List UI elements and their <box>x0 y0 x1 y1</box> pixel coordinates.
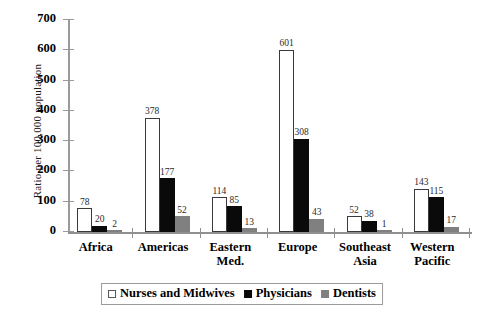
bar-value-label: 85 <box>230 196 240 206</box>
bar-rect <box>362 221 377 233</box>
bar-physicians: 85 <box>227 18 242 232</box>
bar-dentists: 13 <box>242 18 257 232</box>
bar-dentists: 1 <box>377 18 392 232</box>
bar-value-label: 78 <box>80 198 90 208</box>
category-label-southeast-asia: SoutheastAsia <box>331 240 398 268</box>
chart-legend: Nurses and MidwivesPhysiciansDentists <box>101 283 383 305</box>
bar-rect <box>347 216 362 232</box>
bar-dentists: 43 <box>309 18 324 232</box>
category-label-africa: Africa <box>62 240 129 254</box>
y-axis-tick: 200 <box>63 170 74 171</box>
bar-value-label: 177 <box>160 168 174 178</box>
bar-value-label: 17 <box>447 216 457 226</box>
bar-nurses: 78 <box>77 18 92 232</box>
bar-physicians: 38 <box>362 18 377 232</box>
bar-value-label: 143 <box>414 178 428 188</box>
bar-value-label: 13 <box>245 218 255 228</box>
x-axis-tick <box>469 228 470 238</box>
category-label-europe: Europe <box>264 240 331 254</box>
y-axis-tick-label: 200 <box>37 162 56 177</box>
bar-rect <box>175 216 190 232</box>
bar-rect <box>414 189 429 232</box>
y-axis-tick-label: 500 <box>37 72 56 87</box>
bar-value-label: 115 <box>429 187 443 197</box>
bar-value-label: 52 <box>349 206 359 216</box>
bar-group: 52381 <box>347 18 392 232</box>
bar-value-label: 308 <box>295 128 309 138</box>
y-axis-tick-label: 600 <box>37 41 56 56</box>
bar-value-label: 43 <box>312 208 322 218</box>
legend-swatch-nurses-icon <box>108 290 116 298</box>
legend-item-physicians[interactable]: Physicians <box>244 286 312 301</box>
legend-swatch-physicians-icon <box>244 290 252 298</box>
bar-group: 1148513 <box>212 18 257 232</box>
bar-group: 37817752 <box>145 18 190 232</box>
bar-rect <box>377 230 392 232</box>
bar-rect <box>145 118 160 232</box>
category-label-line2: Asia <box>331 254 398 268</box>
y-axis-tick-label: 700 <box>37 11 56 26</box>
bar-value-label: 114 <box>212 187 226 197</box>
bar-value-label: 1 <box>382 220 387 230</box>
y-axis-tick-label: 300 <box>37 132 56 147</box>
category-label-line1: Europe <box>278 240 317 254</box>
y-axis-tick: 500 <box>63 80 74 81</box>
bar-nurses: 601 <box>279 18 294 232</box>
legend-swatch-dentists-icon <box>321 290 329 298</box>
y-axis-tick-label: 400 <box>37 102 56 117</box>
legend-label: Dentists <box>333 286 376 301</box>
bar-rect <box>294 139 309 232</box>
bar-physicians: 308 <box>294 18 309 232</box>
bar-group: 60130843 <box>279 18 324 232</box>
legend-label: Nurses and Midwives <box>120 286 235 301</box>
bar-rect <box>92 226 107 232</box>
y-axis-tick: 600 <box>63 49 74 50</box>
bar-dentists: 17 <box>444 18 459 232</box>
category-label-line1: Americas <box>138 240 189 254</box>
y-axis-tick: 400 <box>63 110 74 111</box>
x-axis-tick <box>402 228 403 238</box>
category-label-line2: Med. <box>197 254 264 268</box>
bar-value-label: 378 <box>145 107 159 117</box>
y-axis-tick: 100 <box>63 201 74 202</box>
bar-nurses: 378 <box>145 18 160 232</box>
bar-rect <box>429 197 444 232</box>
y-axis-tick: 300 <box>63 140 74 141</box>
bar-value-label: 20 <box>95 215 105 225</box>
category-label-line1: Eastern <box>209 240 251 254</box>
y-axis-tick-label: 100 <box>37 193 56 208</box>
bar-rect <box>444 227 459 232</box>
y-axis-tick: 0 <box>63 231 74 232</box>
bar-rect <box>107 230 122 232</box>
bar-rect <box>279 50 294 232</box>
legend-item-nurses[interactable]: Nurses and Midwives <box>108 286 235 301</box>
x-axis-line <box>68 232 472 234</box>
x-axis-tick <box>334 228 335 238</box>
category-label-line2: Pacific <box>399 254 466 268</box>
category-label-western-pacific: WesternPacific <box>399 240 466 268</box>
bar-value-label: 601 <box>280 39 294 49</box>
bar-rect <box>160 178 175 232</box>
bar-physicians: 20 <box>92 18 107 232</box>
x-axis-tick <box>132 228 133 238</box>
bar-physicians: 177 <box>160 18 175 232</box>
bar-dentists: 2 <box>107 18 122 232</box>
x-axis-tick <box>200 228 201 238</box>
bar-chart: Ratio per 100,000 population 01002003004… <box>0 0 484 323</box>
bar-rect <box>77 208 92 232</box>
bar-value-label: 38 <box>364 210 374 220</box>
x-axis-tick <box>267 228 268 238</box>
bar-rect <box>212 197 227 232</box>
bar-rect <box>227 206 242 232</box>
bar-dentists: 52 <box>175 18 190 232</box>
plot-area: 0100200300400500600700 78202378177521148… <box>68 18 472 234</box>
y-axis-tick-label: 0 <box>50 223 56 238</box>
bar-nurses: 114 <box>212 18 227 232</box>
category-label-line1: Southeast <box>339 240 391 254</box>
bar-group: 14311517 <box>414 18 459 232</box>
legend-item-dentists[interactable]: Dentists <box>321 286 376 301</box>
bar-nurses: 143 <box>414 18 429 232</box>
category-label-americas: Americas <box>129 240 196 254</box>
bar-group: 78202 <box>77 18 122 232</box>
category-label-line1: Western <box>410 240 454 254</box>
